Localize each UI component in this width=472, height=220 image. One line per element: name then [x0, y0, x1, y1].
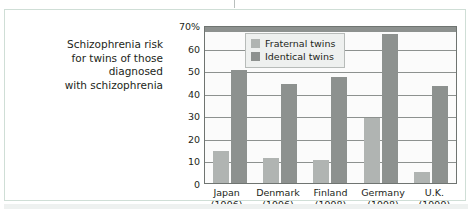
bar-fraternal[interactable]: [364, 118, 380, 183]
bar-group: [364, 27, 398, 183]
legend-label-identical: Identical twins: [265, 51, 334, 62]
x-category-name: Finland: [314, 187, 348, 199]
bar-fraternal[interactable]: [213, 151, 229, 183]
bar-group: [213, 27, 247, 183]
legend-label-fraternal: Fraternal twins: [265, 38, 335, 49]
bar-identical[interactable]: [432, 86, 448, 183]
chart-page: Schizophrenia risk for twins of those di…: [0, 0, 472, 220]
x-category-name: Japan: [211, 187, 243, 199]
x-category-name: U.K.: [419, 187, 451, 199]
bottom-shadow-strip: [4, 204, 468, 209]
bar-fraternal[interactable]: [414, 172, 430, 183]
legend-swatch-identical-icon: [251, 52, 260, 61]
caption-line-3: diagnosed: [23, 65, 163, 79]
y-tick-label: 50: [170, 67, 200, 76]
top-tick-mark: [234, 0, 235, 8]
bar-fraternal[interactable]: [263, 158, 279, 183]
y-tick-label: 40: [170, 89, 200, 98]
plot-area: Fraternal twins Identical twins: [204, 26, 457, 184]
bar-identical[interactable]: [281, 84, 297, 183]
caption-line-1: Schizophrenia risk: [23, 38, 163, 52]
chart-legend: Fraternal twins Identical twins: [245, 33, 345, 68]
bar-identical[interactable]: [231, 70, 247, 183]
caption-line-4: with schizophrenia: [23, 79, 163, 93]
bar-group: [414, 27, 448, 183]
bar-identical[interactable]: [382, 34, 398, 183]
y-tick-label: 0: [170, 180, 200, 189]
x-category-name: Denmark: [256, 187, 300, 199]
caption-line-2: for twins of those: [23, 52, 163, 66]
legend-swatch-fraternal-icon: [251, 39, 260, 48]
x-category-name: Germany: [361, 187, 405, 199]
y-tick-label: 30: [170, 112, 200, 121]
y-tick-label: 20: [170, 134, 200, 143]
y-tick-label: 70%: [170, 22, 200, 31]
figure-card: Schizophrenia risk for twins of those di…: [4, 9, 466, 201]
chart-caption: Schizophrenia risk for twins of those di…: [23, 38, 163, 92]
bar-chart: 010203040506070% Fraternal twins Identic…: [170, 26, 458, 220]
legend-item-identical: Identical twins: [251, 50, 335, 63]
bar-identical[interactable]: [331, 77, 347, 183]
bar-fraternal[interactable]: [313, 160, 329, 183]
y-tick-label: 60: [170, 44, 200, 53]
y-tick-label: 10: [170, 157, 200, 166]
y-axis: 010203040506070%: [170, 26, 200, 184]
legend-item-fraternal: Fraternal twins: [251, 37, 335, 50]
